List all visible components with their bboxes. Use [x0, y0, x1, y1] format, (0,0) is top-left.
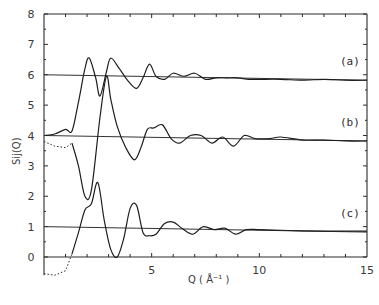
y-tick-label: 4 [28, 130, 35, 143]
y-tick-label: 0 [28, 251, 35, 264]
data-curves [44, 58, 367, 275]
axis-labels: 01234567851015(a)(b)(c) [28, 8, 375, 277]
x-tick-label: 10 [252, 264, 266, 277]
y-tick-label: 2 [28, 190, 35, 203]
x-tick-label: 5 [148, 264, 155, 277]
series-label-b: (b) [340, 116, 360, 129]
curve-b [72, 76, 367, 200]
baselines [44, 75, 367, 232]
x-tick-label: 15 [360, 264, 374, 277]
curve-a [44, 58, 367, 136]
y-tick-label: 1 [28, 221, 35, 234]
curve-c [72, 182, 367, 257]
chart-svg: 01234567851015(a)(b)(c) Q ( Å⁻¹ ) Sij(Q) [0, 0, 379, 305]
dotted-extrapolation [44, 142, 72, 148]
series-label-a: (a) [340, 55, 360, 68]
series-label-c: (c) [340, 207, 360, 220]
axis-ticks [44, 14, 367, 257]
y-tick-label: 7 [28, 38, 35, 51]
y-tick-label: 6 [28, 69, 35, 82]
y-tick-label: 3 [28, 160, 35, 173]
y-axis-label: Sij(Q) [11, 137, 22, 165]
y-tick-label: 8 [28, 8, 35, 21]
plot-frame [44, 14, 367, 275]
x-axis-label: Q ( Å⁻¹ ) [188, 273, 229, 285]
y-tick-label: 5 [28, 99, 35, 112]
